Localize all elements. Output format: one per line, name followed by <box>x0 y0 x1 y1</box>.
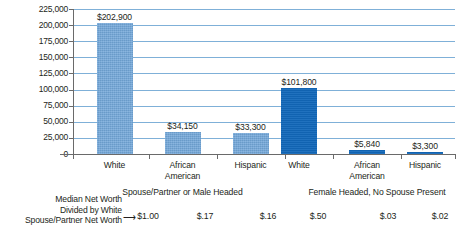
x-axis-category-label: AfricanAmerican <box>145 160 221 181</box>
y-axis-tick-mark <box>69 25 73 26</box>
y-axis-tick-label: 100,000 <box>24 85 68 94</box>
x-axis-category-label: White <box>261 160 337 171</box>
y-axis-tick-labels: 225,000200,000175,000150,000125,000100,0… <box>24 0 68 160</box>
bar-value-label: $3,300 <box>395 141 455 151</box>
y-axis-line <box>73 9 74 155</box>
ratio-caption: Median Net WorthDivided by WhiteSpouse/P… <box>0 194 122 226</box>
ratio-value: $.17 <box>175 211 235 221</box>
y-axis-tick-label: 125,000 <box>24 69 68 78</box>
ratio-value: $.02 <box>410 211 459 221</box>
x-axis-category-label-line: White <box>77 160 153 171</box>
x-axis-category-label-line: American <box>329 171 405 182</box>
y-axis-tick-mark <box>69 138 73 139</box>
ratio-caption-line: Divided by White <box>0 205 122 216</box>
gridline <box>73 9 455 10</box>
bar-value-label: $34,150 <box>153 121 213 131</box>
group-label: Female Headed, No Spouse Present <box>277 187 459 197</box>
bar <box>233 133 269 154</box>
ratio-caption-line: Median Net Worth <box>0 194 122 205</box>
x-axis-category-label-line: American <box>145 171 221 182</box>
plot-area <box>73 9 455 154</box>
x-axis-tick-mark <box>149 155 150 159</box>
y-axis-tick-mark <box>69 73 73 74</box>
x-axis-line <box>60 154 456 155</box>
bar <box>97 23 133 154</box>
y-axis-tick-mark <box>69 41 73 42</box>
y-axis-tick-mark <box>69 57 73 58</box>
x-axis-tick-mark <box>73 155 74 159</box>
x-axis-category-label-line: African <box>145 160 221 171</box>
ratio-value: $1.00 <box>118 211 178 221</box>
x-axis-category-label-line: White <box>261 160 337 171</box>
y-axis-tick-mark <box>69 154 73 155</box>
y-axis-tick-label: 25,000 <box>24 133 68 142</box>
y-axis-tick-mark <box>69 9 73 10</box>
x-axis-tick-mark <box>401 155 402 159</box>
ratio-caption-line: Spouse/Partner Net Worth <box>0 215 122 226</box>
bar-value-label: $202,900 <box>85 12 145 22</box>
x-axis-tick-mark <box>217 155 218 159</box>
y-axis-tick-mark <box>69 90 73 91</box>
y-axis-tick-label: 50,000 <box>24 117 68 126</box>
y-axis-tick-label: 75,000 <box>24 101 68 110</box>
ratio-value: $.50 <box>288 211 348 221</box>
y-axis-tick-label: 175,000 <box>24 37 68 46</box>
y-axis-tick-mark <box>69 106 73 107</box>
bar <box>165 132 201 154</box>
bar <box>281 88 317 154</box>
bar-value-label: $101,800 <box>269 77 329 87</box>
y-axis-tick-label: 150,000 <box>24 53 68 62</box>
y-axis-tick-mark <box>69 122 73 123</box>
x-axis-tick-mark <box>285 155 286 159</box>
bar-value-label: $5,840 <box>337 139 397 149</box>
bar-value-label: $33,300 <box>221 122 281 132</box>
ratio-value: $.03 <box>358 211 418 221</box>
y-axis-tick-label: 200,000 <box>24 21 68 30</box>
x-axis-tick-mark <box>333 155 334 159</box>
x-axis-tick-mark <box>455 155 456 159</box>
x-axis-category-label-line: Hispanic <box>387 160 459 171</box>
y-axis-tick-label: 225,000 <box>24 5 68 14</box>
x-axis-category-label: Hispanic <box>387 160 459 171</box>
x-axis-category-label: White <box>77 160 153 171</box>
